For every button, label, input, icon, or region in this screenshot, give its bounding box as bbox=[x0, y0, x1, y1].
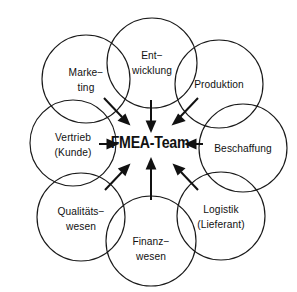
node-label-entwicklung-line2: wicklung bbox=[131, 65, 172, 76]
node-circle-qualitaetswesen[interactable] bbox=[37, 173, 125, 261]
node-label-finanzwesen-line1: Finanz− bbox=[132, 236, 169, 247]
node-circle-marketing[interactable] bbox=[42, 35, 130, 123]
node-label-qualitaetswesen-line1: Qualitäts− bbox=[57, 206, 104, 217]
arrow-logistik-to-center bbox=[173, 164, 199, 191]
node-label-produktion-line1: Produktion bbox=[194, 79, 244, 90]
fmea-team-diagram: Ent− wicklung Produktion Beschaffung Log… bbox=[0, 0, 297, 292]
node-label-marketing-line1: Marke− bbox=[69, 67, 104, 78]
node-label-marketing-line2: ting bbox=[78, 82, 95, 93]
node-label-vertrieb-line2: (Kunde) bbox=[55, 147, 92, 158]
diagram-canvas: Ent− wicklung Produktion Beschaffung Log… bbox=[0, 0, 297, 292]
node-label-vertrieb-line1: Vertrieb bbox=[55, 132, 91, 143]
node-label-logistik-line2: (Lieferant) bbox=[197, 219, 245, 230]
arrow-finanzwesen-to-center bbox=[146, 157, 157, 200]
node-label-entwicklung-line1: Ent− bbox=[141, 50, 163, 61]
node-label-finanzwesen-line2: wesen bbox=[135, 251, 166, 262]
node-label-qualitaetswesen-line2: wesen bbox=[65, 221, 96, 232]
node-label-beschaffung-line1: Beschaffung bbox=[214, 143, 272, 154]
center-node-label: FMEA-Team bbox=[111, 133, 190, 151]
node-label-logistik-line1: Logistik bbox=[203, 204, 239, 215]
